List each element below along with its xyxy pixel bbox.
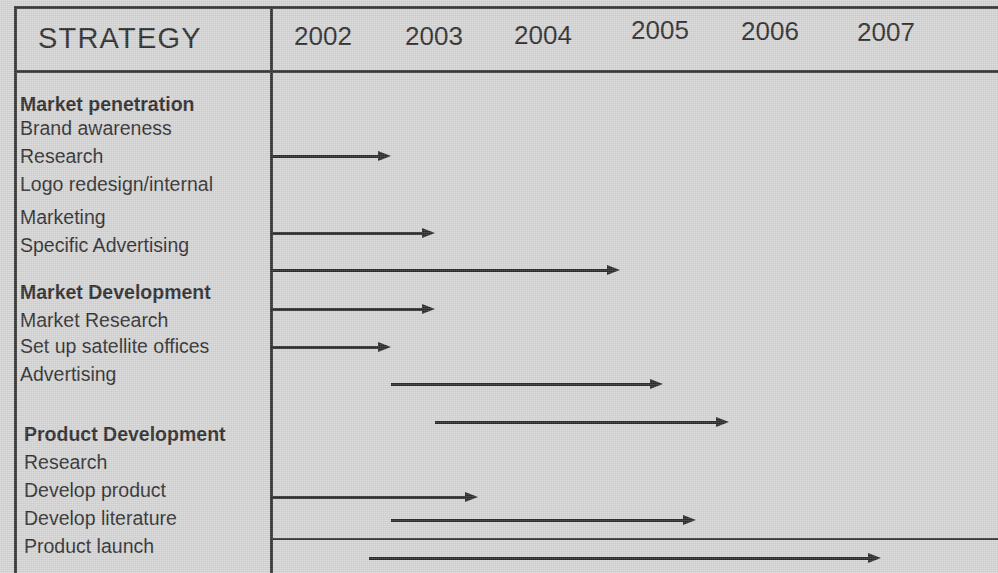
task-label-brand-awareness: Brand awareness bbox=[20, 117, 172, 140]
task-label-develop-product: Develop product bbox=[24, 479, 166, 502]
task-label-logo-redesign: Logo redesign/internal bbox=[20, 173, 213, 196]
column-divider bbox=[270, 6, 273, 573]
year-header-2003: 2003 bbox=[405, 20, 463, 52]
strategy-gantt-chart: STRATEGY 2002 2003 2004 2005 2006 2007 M… bbox=[0, 0, 998, 573]
year-header-2007: 2007 bbox=[857, 16, 915, 48]
section-divider-bottom bbox=[270, 538, 998, 540]
table-top-border bbox=[14, 6, 998, 9]
timeline-arrow-product-launch bbox=[369, 553, 881, 564]
task-label-research-2: Research bbox=[24, 451, 107, 474]
task-label-advertising: Advertising bbox=[20, 363, 116, 386]
timeline-arrow-develop-product bbox=[271, 492, 478, 503]
task-label-specific-advertising: Specific Advertising bbox=[20, 234, 189, 257]
year-header-2004: 2004 bbox=[514, 19, 572, 51]
timeline-arrow-product-development bbox=[435, 417, 729, 428]
task-label-develop-literature: Develop literature bbox=[24, 507, 177, 530]
page-title: STRATEGY bbox=[38, 16, 258, 60]
group-label-market-penetration: Market penetration bbox=[20, 93, 194, 116]
task-label-market-research: Market Research bbox=[20, 309, 168, 332]
timeline-arrow-market-research bbox=[271, 304, 435, 315]
timeline-arrow-satellite-offices bbox=[271, 342, 391, 353]
task-label-research-1: Research bbox=[20, 145, 103, 168]
group-label-market-development: Market Development bbox=[20, 281, 211, 304]
year-header-2006: 2006 bbox=[741, 15, 799, 47]
task-label-satellite-offices: Set up satellite offices bbox=[20, 335, 209, 358]
group-label-product-development: Product Development bbox=[24, 423, 226, 446]
task-label-marketing: Marketing bbox=[20, 206, 106, 229]
timeline-arrow-marketing bbox=[271, 265, 620, 276]
table-left-border bbox=[14, 6, 17, 573]
task-label-product-launch: Product launch bbox=[24, 535, 154, 558]
header-bottom-border bbox=[14, 70, 998, 73]
year-header-2002: 2002 bbox=[294, 20, 352, 52]
year-header-2005: 2005 bbox=[631, 14, 689, 46]
timeline-arrow-logo-redesign bbox=[271, 228, 435, 239]
timeline-arrow-brand-awareness bbox=[271, 151, 391, 162]
timeline-arrow-develop-literature bbox=[391, 515, 696, 526]
timeline-arrow-advertising bbox=[391, 379, 664, 390]
